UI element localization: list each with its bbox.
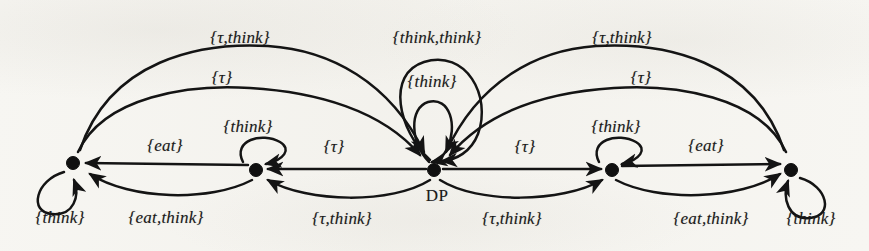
- state-node-5[interactable]: [785, 164, 798, 177]
- edge-label-tau-upper-right: {τ}: [631, 68, 651, 88]
- edge-n4-to-n5-eat: [622, 164, 780, 166]
- edge-label-tau-mid-left: {τ}: [324, 137, 344, 157]
- edge-label-eat-think-right: {eat,think}: [674, 209, 749, 229]
- edge-n2-to-n1-eat-think: [90, 174, 252, 195]
- state-node-dp[interactable]: [428, 164, 441, 177]
- edge-label-tau-think-bottom-left: {τ,think}: [312, 209, 372, 229]
- edge-label-think-think-center-top: {think,think}: [393, 28, 481, 48]
- edge-n2-selfloop-think: [241, 138, 286, 164]
- state-node-4[interactable]: [606, 164, 619, 177]
- edge-n4-to-n5-eat-think: [616, 174, 780, 195]
- figure-canvas: {τ,think} {τ} {think} {think,think} {thi…: [0, 0, 869, 251]
- edge-label-tau-upper-left: {τ}: [212, 68, 232, 88]
- edge-label-think-center-loop: {think}: [408, 72, 457, 92]
- state-node-1[interactable]: [67, 157, 80, 170]
- edge-n2-to-n1-eat: [86, 163, 248, 165]
- edge-dp-to-n4-tau-think: [440, 180, 602, 198]
- edge-label-tau-think-top-right: {τ,think}: [592, 28, 652, 48]
- state-node-2[interactable]: [250, 164, 263, 177]
- edge-label-think-left-inner: {think}: [224, 117, 273, 137]
- edge-label-tau-mid-right: {τ}: [515, 137, 535, 157]
- state-node-dp-label: DP: [426, 186, 449, 206]
- edge-n4-selfloop-think: [597, 138, 642, 164]
- edge-label-tau-think-bottom-right: {τ,think}: [482, 209, 542, 229]
- edge-label-tau-think-top-left: {τ,think}: [210, 28, 270, 48]
- edge-label-eat-left: {eat}: [147, 136, 182, 156]
- edge-label-eat-right: {eat}: [688, 136, 723, 156]
- edge-label-think-right-inner: {think}: [592, 117, 641, 137]
- edge-label-think-selfloop-right: {think}: [787, 209, 836, 229]
- edge-dp-to-n2-tau-think: [268, 180, 430, 198]
- edge-label-think-selfloop-left: {think}: [36, 208, 85, 228]
- edge-label-eat-think-left: {eat,think}: [129, 208, 204, 228]
